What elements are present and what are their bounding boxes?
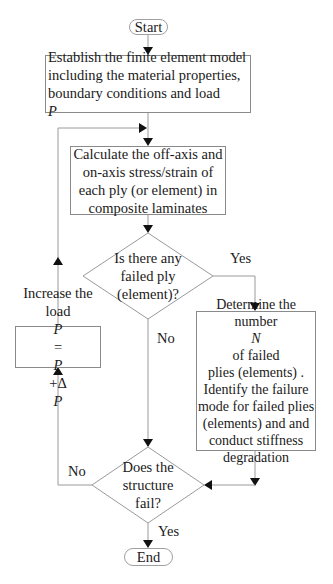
calculate-line-1: Calculate the off-axis and [73,145,222,163]
determine-line-8: degradation [198,449,314,466]
determine-line-1: Determine the [198,296,314,313]
formula-p-c: P [54,393,63,409]
determine-line-7: conduct stiffness [198,432,314,449]
calculate-stress-process: Calculate the off-axis and on-axis stres… [70,146,226,215]
no-label-structure: No [68,463,86,480]
increase-load-process: Increase the load P=P+ΔP [15,326,101,368]
increase-line-1: Increase the [23,284,93,302]
determine-line-4: Identify the failure [198,381,314,398]
determine-line-5: mode for failed plies [198,398,314,415]
yes-label-failed-ply: Yes [230,250,251,267]
determine-line-2a: number [198,313,314,330]
decision-failed-ply-text: Is there any failed ply (element)? [98,249,198,303]
failed-count-variable: N [251,331,260,346]
establish-model-line-2: including the material properties, [48,66,246,84]
calculate-line-2: on-axis stress/strain of [73,163,222,181]
load-variable: P [48,103,57,119]
calculate-line-3: each ply (or element) in [73,181,222,199]
start-label: Start [135,19,162,35]
determine-line-2b: of failed [198,347,314,364]
determine-line-6: (elements) and and [198,415,314,432]
formula-p-a: P [54,321,63,337]
establish-model-line-1: Establish the finite element model [48,48,246,66]
start-terminal: Start [129,19,168,35]
establish-model-process: Establish the finite element model inclu… [45,55,251,113]
formula-plus-delta: +Δ [23,374,93,392]
increase-line-2-pre: load [23,302,93,320]
yes-label-structure: Yes [158,523,179,540]
decision-2-line-3: fail? [108,494,188,512]
end-terminal: End [124,548,173,566]
formula-p-b: P [54,357,63,373]
decision-structure-fail-text: Does the structure fail? [108,458,188,512]
determine-failure-process: Determine the number N of failed plies (… [196,311,316,451]
decision-1-line-3: (element)? [98,285,198,303]
decision-2-line-1: Does the [108,458,188,476]
no-label-failed-ply: No [157,330,175,347]
decision-2-line-2: structure [108,476,188,494]
formula-eq: = [23,338,93,356]
end-label: End [137,548,160,566]
establish-model-line-3: boundary conditions and load [48,84,246,102]
decision-1-line-1: Is there any [98,249,198,267]
calculate-line-4: composite laminates [73,199,222,217]
determine-line-3: plies (elements) . [198,364,314,381]
decision-1-line-2: failed ply [98,267,198,285]
